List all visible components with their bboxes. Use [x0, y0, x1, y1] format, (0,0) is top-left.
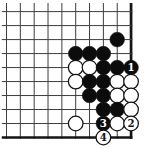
white-stone: [82, 60, 97, 75]
move-3-stone-black: 3: [96, 116, 111, 131]
white-stone: [110, 74, 125, 89]
white-stone-circle: [124, 74, 139, 89]
black-stone-circle: [96, 102, 111, 117]
white-stone-circle: [124, 116, 139, 131]
white-stone: [68, 60, 83, 75]
move-2-stone-white: 2: [124, 116, 139, 131]
white-stone-circle: [110, 116, 125, 131]
black-stone: [96, 60, 111, 75]
black-stone-circle: [82, 46, 97, 61]
black-stone: [96, 88, 111, 103]
black-stone-circle: [110, 102, 125, 117]
white-stone: [124, 88, 139, 103]
white-stone: [110, 88, 125, 103]
black-stone: [96, 74, 111, 89]
diagram-page: 1324: [0, 0, 149, 160]
black-stone-circle: [82, 74, 97, 89]
black-stone-circle: [96, 74, 111, 89]
black-stone-circle: [96, 60, 111, 75]
white-stone-circle: [68, 60, 83, 75]
white-stone-circle: [82, 60, 97, 75]
white-stone-circle: [124, 102, 139, 117]
white-stone-circle: [68, 74, 83, 89]
white-stone: [124, 102, 139, 117]
black-stone-circle: [110, 32, 125, 47]
white-stone-circle: [96, 130, 111, 145]
white-stone: [68, 74, 83, 89]
black-stone: [110, 60, 125, 75]
white-stone: [124, 74, 139, 89]
black-stone-circle: [110, 60, 125, 75]
black-stone: [68, 46, 83, 61]
black-stone: [82, 74, 97, 89]
black-stone-circle: [124, 60, 139, 75]
move-4-stone-white: 4: [96, 130, 111, 145]
black-stone: [82, 88, 97, 103]
white-stone-circle: [110, 88, 125, 103]
black-stone: [96, 46, 111, 61]
white-stone-circle: [68, 116, 83, 131]
move-1-stone-black: 1: [124, 60, 139, 75]
go-board-diagram: 1324: [0, 0, 149, 160]
black-stone-circle: [68, 46, 83, 61]
white-stone-circle: [110, 74, 125, 89]
black-stone-circle: [82, 88, 97, 103]
white-stone-circle: [124, 88, 139, 103]
black-stone: [110, 102, 125, 117]
black-stone: [110, 32, 125, 47]
white-stone: [110, 116, 125, 131]
black-stone-circle: [96, 116, 111, 131]
black-stone: [96, 102, 111, 117]
black-stone: [82, 46, 97, 61]
black-stone-circle: [96, 46, 111, 61]
white-stone: [68, 116, 83, 131]
black-stone-circle: [96, 88, 111, 103]
